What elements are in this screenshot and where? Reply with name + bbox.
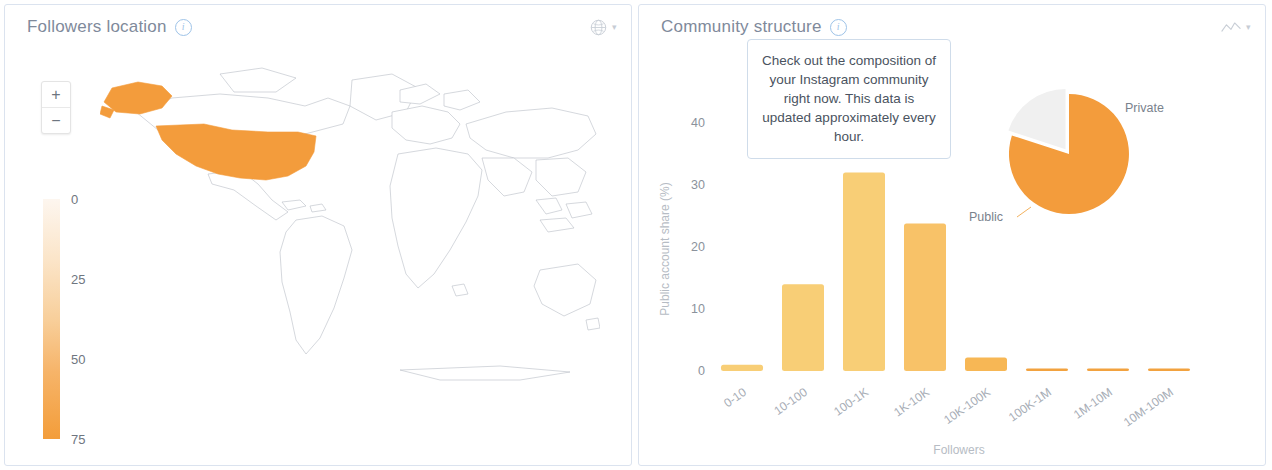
globe-icon[interactable] [590,19,607,36]
bar-2 [843,173,885,371]
y-axis-title: Public account share (%) [658,182,672,315]
community-structure-chart: 40 30 20 10 0 Public account share (%) [639,49,1265,465]
bar-5 [1026,369,1068,372]
zoom-out-button[interactable]: − [42,108,70,133]
svg-text:30: 30 [691,178,705,192]
map-view-selector[interactable]: ▾ [590,19,617,36]
map-zoom-controls[interactable]: + − [41,81,71,134]
line-chart-icon[interactable] [1221,21,1241,34]
legend-tick-50: 50 [71,352,85,367]
svg-text:1K-10K: 1K-10K [891,385,932,419]
page-title: Followers location [27,17,167,37]
bar-3 [904,223,946,371]
bar-0 [721,365,763,371]
svg-text:10: 10 [691,302,705,316]
chevron-down-icon[interactable]: ▾ [1246,23,1251,32]
pie-label-private: Private [1125,101,1164,115]
community-structure-header: Community structure i ▾ [639,5,1265,49]
info-circle-icon[interactable]: i [175,19,192,36]
bar-1 [782,284,824,371]
svg-text:10M-100M: 10M-100M [1121,385,1176,429]
svg-text:1M-10M: 1M-10M [1071,385,1115,422]
info-circle-icon[interactable]: i [830,19,847,36]
pie-label-public: Public [969,210,1003,224]
legend-tick-25: 25 [71,272,85,287]
y-axis-ticks: 40 30 20 10 0 [691,116,705,378]
zoom-in-button[interactable]: + [42,82,70,108]
svg-text:100K-1M: 100K-1M [1006,385,1054,424]
svg-text:10-100: 10-100 [771,385,810,418]
analytics-dashboard: Followers location i ▾ + [0,0,1272,470]
world-map[interactable]: + − 0 25 50 75 [5,49,631,465]
pie-leader-line-public [1017,207,1031,217]
bar-and-pie-svg: 40 30 20 10 0 Public account share (%) [639,49,1265,465]
svg-text:20: 20 [691,240,705,254]
bar-series [721,173,1190,371]
pie-chart [1008,89,1129,217]
community-structure-card: Community structure i ▾ 40 30 20 1 [638,4,1266,466]
x-axis-title: Followers [933,443,984,457]
info-tooltip: Check out the composition of your Instag… [747,39,951,159]
chevron-down-icon[interactable]: ▾ [612,23,617,32]
bar-6 [1087,369,1129,372]
world-map-svg[interactable] [100,54,600,394]
svg-text:100-1K: 100-1K [831,385,871,419]
svg-text:0-10: 0-10 [721,385,749,410]
followers-location-card: Followers location i ▾ + [4,4,632,466]
svg-text:0: 0 [698,364,705,378]
svg-text:10K-100K: 10K-100K [941,385,993,427]
chart-type-selector[interactable]: ▾ [1221,21,1251,34]
bar-7 [1148,369,1190,372]
panel-title: Community structure [661,17,822,37]
x-axis-categories: 0-10 10-100 100-1K 1K-10K 10K-100K 100K-… [721,385,1176,430]
color-gradient-bar [43,199,60,439]
followers-location-header: Followers location i ▾ [5,5,631,49]
legend-tick-0: 0 [71,192,78,207]
highlighted-country-usa [156,124,316,180]
bar-4 [965,357,1007,371]
svg-text:40: 40 [691,116,705,130]
legend-tick-75: 75 [71,432,85,447]
